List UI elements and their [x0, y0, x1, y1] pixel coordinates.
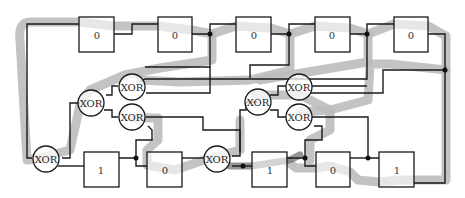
xor-gate-4: XOR: [119, 104, 145, 130]
junction-dot: [287, 32, 292, 37]
svg-text:XOR: XOR: [80, 98, 103, 109]
junction-dot: [134, 156, 139, 161]
svg-text:XOR: XOR: [206, 154, 229, 165]
svg-text:0: 0: [251, 30, 257, 41]
svg-text:0: 0: [330, 165, 336, 176]
register-b3: 1: [252, 152, 287, 187]
junction-dot: [241, 164, 246, 169]
xor-gate-7: XOR: [286, 74, 312, 100]
register-b4: 0: [316, 152, 350, 187]
xor-gate-6: XOR: [245, 89, 271, 115]
circuit-diagram: 0 0 0 0 0 1 0 1 0 1 XOR XOR: [0, 0, 465, 198]
junction-dot: [365, 32, 370, 37]
xor-gate-2: XOR: [78, 90, 104, 116]
svg-text:0: 0: [408, 30, 414, 41]
junction-dot: [208, 32, 213, 37]
xor-gate-1: XOR: [33, 146, 59, 172]
register-t5: 0: [394, 17, 428, 52]
svg-text:XOR: XOR: [121, 112, 144, 123]
register-t1: 0: [79, 17, 114, 52]
register-b2: 0: [147, 152, 182, 187]
svg-text:1: 1: [98, 165, 104, 176]
junction-dot: [443, 68, 448, 73]
svg-text:0: 0: [94, 30, 100, 41]
svg-text:0: 0: [329, 30, 335, 41]
register-t2: 0: [158, 17, 192, 52]
svg-text:XOR: XOR: [247, 97, 270, 108]
xor-gate-3: XOR: [119, 74, 145, 100]
svg-text:1: 1: [394, 165, 400, 176]
register-t4: 0: [315, 17, 350, 52]
xor-gate-5: XOR: [204, 146, 230, 172]
svg-text:0: 0: [172, 30, 178, 41]
register-b5: 1: [379, 152, 414, 187]
junction-dot: [303, 156, 308, 161]
svg-text:XOR: XOR: [35, 154, 58, 165]
svg-text:0: 0: [162, 165, 168, 176]
register-t3: 0: [236, 17, 271, 52]
junction-dot: [366, 156, 371, 161]
register-b1: 1: [84, 152, 119, 187]
svg-text:XOR: XOR: [288, 82, 311, 93]
xor-gate-8: XOR: [286, 104, 312, 130]
svg-text:XOR: XOR: [288, 112, 311, 123]
svg-text:1: 1: [267, 165, 273, 176]
svg-text:XOR: XOR: [121, 82, 144, 93]
